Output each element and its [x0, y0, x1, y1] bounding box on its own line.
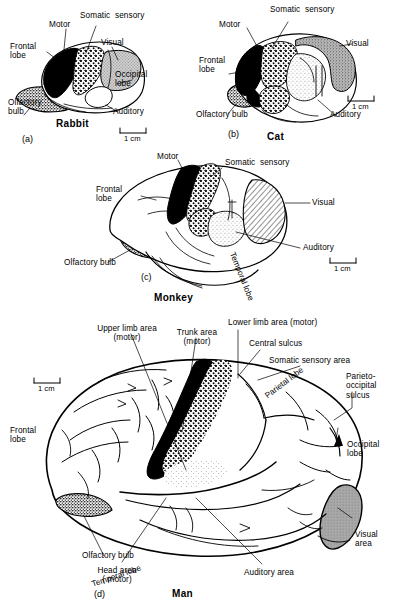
man-brain-drawing	[46, 359, 362, 556]
cat-label-motor: Motor	[219, 20, 240, 29]
man-label-central-sulcus: Central sulcus	[249, 339, 302, 348]
figure-artwork	[0, 0, 395, 610]
man-label-lower-limb-area: Lower limb area (motor)	[228, 318, 317, 327]
monkey-brain-drawing	[110, 164, 287, 288]
monkey-label-motor: Motor	[157, 152, 178, 161]
man-species-name: Man	[172, 588, 193, 599]
rabbit-label-occipital-lobe: Occipital lobe	[115, 70, 147, 89]
cat-scale-caption: 1 cm	[352, 102, 368, 111]
monkey-species-name: Monkey	[154, 292, 193, 303]
man-panel-id: (d)	[94, 589, 105, 599]
monkey-panel-id: (c)	[141, 272, 152, 282]
rabbit-label-visual: Visual	[101, 38, 124, 47]
monkey-scale-caption: 1 cm	[334, 264, 350, 273]
cat-species-name: Cat	[267, 131, 284, 142]
rabbit-label-motor: Motor	[49, 20, 70, 29]
rabbit-scale-caption: 1 cm	[124, 134, 140, 143]
man-scale-bar	[34, 378, 60, 383]
man-label-somatic-sensory-area: Somatic sensory area	[269, 356, 350, 365]
cat-panel-id: (b)	[228, 129, 239, 139]
monkey-label-frontal-lobe: Frontal lobe	[96, 185, 122, 204]
cat-label-auditory: Auditory	[330, 110, 361, 119]
cat-label-frontal-lobe: Frontal lobe	[199, 56, 225, 75]
monkey-label-somatic-sensory: Somatic sensory	[225, 158, 289, 167]
rabbit-species-name: Rabbit	[56, 118, 89, 129]
monkey-label-auditory: Auditory	[303, 243, 334, 252]
monkey-label-olfactory-bulb: Olfactory bulb	[64, 258, 116, 267]
man-label-occipital-lobe: Occipital lobe	[347, 440, 379, 459]
monkey-label-visual: Visual	[312, 198, 335, 207]
monkey-scale-bar	[330, 258, 356, 263]
rabbit-panel-id: (a)	[22, 134, 33, 144]
rabbit-label-auditory: Auditory	[113, 107, 144, 116]
cat-brain-drawing	[228, 34, 357, 122]
man-label-upper-limb-area: Upper limb area (motor)	[78, 324, 176, 343]
man-label-head-area: Head area ( motor)	[80, 566, 154, 585]
rabbit-label-somatic-sensory: Somatic sensory	[80, 11, 144, 20]
man-label-auditory-area: Auditory area	[244, 568, 294, 577]
man-label-trunk-area: Trunk area (motor)	[166, 328, 228, 347]
rabbit-scale-bar	[120, 128, 146, 133]
rabbit-label-olfactory-bulb: Olfactory bulb	[8, 98, 42, 117]
man-label-olfactory-bulb: Olfactory bulb	[82, 551, 134, 560]
man-label-parieto-occipital-sulcus: Parieto- occipital sulcus	[346, 372, 376, 400]
man-label-visual-area: Visual area	[355, 530, 378, 549]
comparative-brain-figure: Frontal lobe Motor Somatic sensory Visua…	[0, 0, 395, 610]
cat-label-visual: Visual	[346, 39, 369, 48]
rabbit-label-frontal-lobe: Frontal lobe	[10, 42, 36, 61]
man-label-frontal-lobe: Frontal lobe	[10, 426, 36, 445]
cat-label-olfactory-bulb: Olfactory bulb	[196, 110, 248, 119]
cat-label-somatic-sensory: Somatic sensory	[270, 5, 334, 14]
man-scale-caption: 1 cm	[38, 384, 54, 393]
